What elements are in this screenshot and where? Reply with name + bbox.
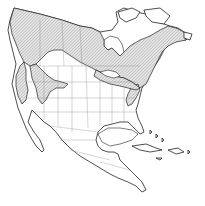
caribbean-islands	[132, 130, 190, 160]
gulf-of-mexico	[98, 128, 138, 146]
range-map	[0, 0, 205, 206]
